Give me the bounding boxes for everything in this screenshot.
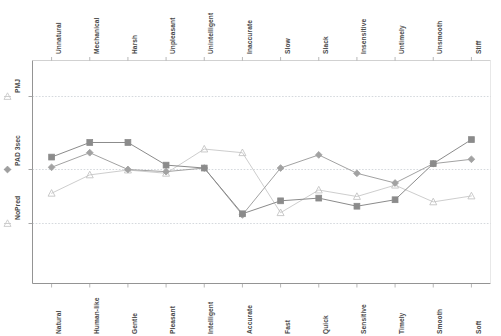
series-pad-3sec <box>48 149 475 218</box>
gridlines <box>29 97 491 224</box>
axis-frame <box>33 61 491 284</box>
bottom-axis-ticks <box>52 284 472 288</box>
series-pmj <box>49 137 475 217</box>
plot-area <box>0 0 501 336</box>
semantic-differential-chart: UnnaturalMechanicalHarshUnpleasantUninte… <box>0 0 501 336</box>
series-nopred <box>48 145 475 215</box>
top-axis-ticks <box>52 57 472 61</box>
legend-key-glyphs <box>4 93 11 227</box>
